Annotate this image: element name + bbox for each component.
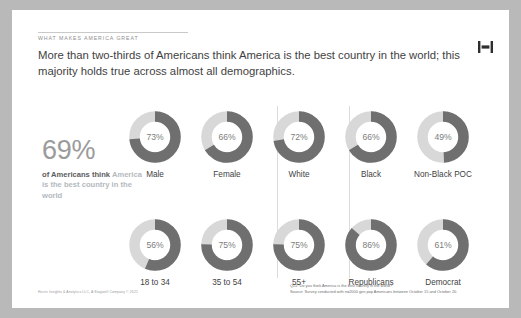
donut-value-label: 66% [201, 111, 253, 163]
donut-category-label: White [264, 170, 334, 179]
donut-category-label: Male [120, 170, 190, 179]
donut-ring: 72% [273, 111, 325, 163]
donut-ring: 75% [273, 219, 325, 271]
donut-ring: 66% [345, 111, 397, 163]
donut-ring: 49% [417, 111, 469, 163]
donut-value-label: 75% [273, 219, 325, 271]
donut-category-label: Female [192, 170, 262, 179]
donut-ring: 61% [417, 219, 469, 271]
donut-chart-republicans: 86%Republicans [336, 219, 406, 287]
donut-value-label: 72% [273, 111, 325, 163]
eyebrow-label: WHAT MAKES AMERICA GREAT [38, 35, 139, 41]
eyebrow-divider [38, 32, 188, 33]
headline-stat-caption-lead: of Americans think [42, 170, 112, 179]
source-note-source: Source: Survey conducted with n=2000 gen… [290, 289, 493, 294]
donut-value-label: 73% [129, 111, 181, 163]
donut-ring: 75% [201, 219, 253, 271]
copyright-notice: Harris Insights & Analytics LLC, A Stagw… [38, 290, 138, 294]
donut-chart-white: 72%White [264, 111, 334, 179]
donut-value-label: 61% [417, 219, 469, 271]
page-title: More than two-thirds of Americans think … [38, 48, 470, 79]
donut-ring: 66% [201, 111, 253, 163]
donut-value-label: 86% [345, 219, 397, 271]
source-note: Q22: Do you think America is the best co… [290, 283, 493, 294]
donut-ring: 73% [129, 111, 181, 163]
donut-category-label: 18 to 34 [120, 278, 190, 287]
donut-chart-black: 66%Black [336, 111, 406, 179]
donut-chart-18-to-34: 56%18 to 34 [120, 219, 190, 287]
donut-chart-female: 66%Female [192, 111, 262, 179]
donut-category-label: Black [336, 170, 406, 179]
donut-chart-non-black-poc: 49%Non-Black POC [408, 111, 478, 179]
donut-category-label: 35 to 54 [192, 278, 262, 287]
donut-chart-35-to-54: 75%35 to 54 [192, 219, 262, 287]
donut-chart-55: 75%55+ [264, 219, 334, 287]
donut-value-label: 49% [417, 111, 469, 163]
slide-canvas: WHAT MAKES AMERICA GREAT More than two-t… [12, 10, 509, 308]
donut-ring: 86% [345, 219, 397, 271]
harris-poll-logo-icon [478, 39, 493, 51]
donut-chart-democrat: 61%Democrat [408, 219, 478, 287]
donut-value-label: 66% [345, 111, 397, 163]
donut-ring: 56% [129, 219, 181, 271]
donut-chart-male: 73%Male [120, 111, 190, 179]
donut-category-label: Non-Black POC [408, 170, 478, 179]
donut-value-label: 75% [201, 219, 253, 271]
donut-value-label: 56% [129, 219, 181, 271]
